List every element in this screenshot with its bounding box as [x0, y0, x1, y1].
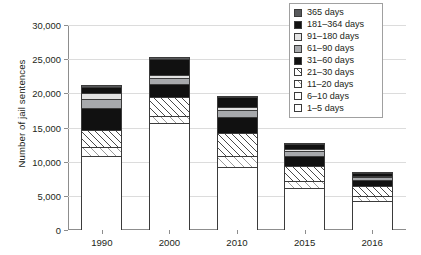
legend-item[interactable]: 1–5 days: [294, 102, 378, 114]
y-tick-label: 5,000: [38, 190, 61, 201]
bar-segment: [150, 116, 189, 123]
bar-segment: [150, 84, 189, 97]
x-tick-mark: [372, 230, 373, 234]
bar-segment: [82, 108, 121, 129]
bar-segment: [285, 156, 324, 166]
bar-segment: [150, 75, 189, 78]
legend-swatch-icon: [294, 21, 302, 29]
legend-swatch-icon: [294, 33, 302, 41]
bar-segment: [150, 59, 189, 75]
bar-segment: [353, 173, 392, 176]
bar-segment: [218, 97, 257, 107]
bar-segment: [353, 212, 392, 230]
legend-swatch-icon: [294, 57, 302, 65]
bar-2016: [352, 172, 393, 230]
x-tick-label: 1990: [91, 237, 112, 248]
bar-segment: [285, 207, 324, 230]
bar-segment: [150, 78, 189, 84]
bar-segment: [82, 156, 121, 179]
legend-label: 21–30 days: [307, 68, 354, 77]
legend-swatch-icon: [294, 92, 302, 100]
bar-segment: [218, 117, 257, 133]
bar-segment: [82, 99, 121, 109]
legend-label: 61–90 days: [307, 44, 354, 53]
bar-segment: [82, 130, 121, 148]
bar-segment: [285, 181, 324, 189]
legend-item[interactable]: 181–364 days: [294, 19, 378, 31]
legend-swatch-icon: [294, 68, 302, 76]
y-tick-label: 25,000: [32, 54, 61, 65]
chart-root: Number of jail sentences 05,00010,00015,…: [0, 0, 421, 255]
bar-segment: [218, 195, 257, 230]
bar-segment: [218, 110, 257, 116]
bar-segment: [150, 57, 189, 59]
bar-segment: [285, 188, 324, 206]
legend-item[interactable]: 6–10 days: [294, 90, 378, 102]
bar-segment: [82, 178, 121, 230]
bar-segment: [353, 176, 392, 177]
legend-label: 11–20 days: [307, 80, 353, 89]
bar-segment: [285, 151, 324, 155]
y-tick-mark: [64, 230, 68, 231]
legend-item[interactable]: 11–20 days: [294, 78, 378, 90]
legend-item[interactable]: 21–30 days: [294, 66, 378, 78]
bar-segment: [150, 97, 189, 115]
x-tick-mark: [305, 230, 306, 234]
legend-swatch-icon: [294, 104, 302, 112]
legend-item[interactable]: 365 days: [294, 7, 378, 19]
y-tick-mark: [64, 196, 68, 197]
legend-label: 91–180 days: [307, 32, 359, 41]
bar-segment: [285, 143, 324, 144]
y-tick-mark: [64, 128, 68, 129]
bar-segment: [218, 96, 257, 97]
x-tick-label: 2010: [226, 237, 247, 248]
legend-item[interactable]: 31–60 days: [294, 55, 378, 67]
bar-segment: [353, 177, 392, 180]
legend-label: 181–364 days: [307, 20, 364, 29]
legend-item[interactable]: 91–180 days: [294, 31, 378, 43]
bar-segment: [82, 147, 121, 155]
y-tick-mark: [64, 162, 68, 163]
x-tick-mark: [169, 230, 170, 234]
x-tick-mark: [102, 230, 103, 234]
bar-segment: [285, 144, 324, 149]
bar-segment: [285, 149, 324, 151]
bar-2010: [217, 96, 258, 230]
x-tick-label: 2016: [362, 237, 383, 248]
bar-segment: [218, 133, 257, 156]
bar-segment: [218, 167, 257, 195]
bar-segment: [353, 201, 392, 213]
legend-item[interactable]: 61–90 days: [294, 43, 378, 55]
y-tick-label: 20,000: [32, 88, 61, 99]
y-tick-mark: [64, 25, 68, 26]
bar-segment: [82, 87, 121, 93]
legend-label: 1–5 days: [307, 104, 344, 113]
y-tick-mark: [64, 59, 68, 60]
x-tick-label: 2000: [159, 237, 180, 248]
bar-segment: [150, 153, 189, 230]
bar-segment: [353, 196, 392, 201]
x-tick-label: 2015: [294, 237, 315, 248]
legend-label: 31–60 days: [307, 56, 354, 65]
x-tick-mark: [237, 230, 238, 234]
bar-1990: [81, 85, 122, 230]
y-tick-label: 0: [56, 225, 61, 236]
bar-segment: [353, 172, 392, 173]
bar-segment: [218, 107, 257, 110]
legend-label: 6–10 days: [307, 92, 349, 101]
legend: 365 days181–364 days91–180 days61–90 day…: [289, 3, 383, 118]
y-axis-title: Number of jail sentences: [16, 19, 27, 209]
y-tick-label: 10,000: [32, 156, 61, 167]
bar-segment: [82, 93, 121, 98]
y-tick-label: 30,000: [32, 20, 61, 31]
bar-segment: [353, 180, 392, 186]
bar-segment: [82, 85, 121, 87]
bar-segment: [150, 123, 189, 154]
bar-segment: [353, 186, 392, 196]
legend-label: 365 days: [307, 8, 344, 17]
y-tick-mark: [64, 93, 68, 94]
legend-swatch-icon: [294, 9, 302, 17]
bar-2000: [149, 57, 190, 230]
legend-swatch-icon: [294, 45, 302, 53]
bar-segment: [218, 156, 257, 167]
